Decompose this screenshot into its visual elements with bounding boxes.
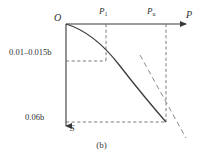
pu-marker-label: Pu [147, 7, 156, 16]
plot-canvas [0, 0, 203, 163]
x-axis-label: P [186, 10, 192, 20]
settlement-tick-upper: 0.01–0.015b [9, 48, 52, 57]
p1-base: P [99, 6, 105, 16]
load-settlement-figure: O P S P1 Pu 0.01–0.015b 0.06b (b) [0, 0, 203, 163]
tangent-asymptote-line [140, 55, 186, 138]
origin-label: O [54, 13, 61, 23]
p1-marker-label: P1 [99, 7, 108, 16]
figure-caption: (b) [0, 140, 203, 150]
pu-subscript: u [153, 11, 156, 17]
pu-base: P [147, 6, 153, 16]
y-axis-label: S [70, 124, 75, 133]
load-settlement-curve [66, 24, 166, 122]
settlement-tick-lower: 0.06b [25, 113, 44, 122]
p1-subscript: 1 [105, 11, 108, 17]
